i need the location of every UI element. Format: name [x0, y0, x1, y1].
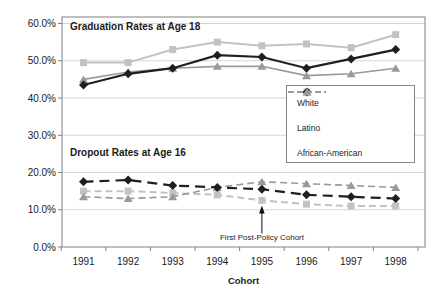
legend-label-white: White [297, 98, 319, 108]
x-tick-label: 1994 [206, 256, 229, 267]
white-square-marker [258, 42, 265, 49]
x-tick-label: 1996 [295, 256, 318, 267]
white-square-marker [392, 31, 399, 38]
latino-line [84, 50, 396, 85]
white-square-marker [125, 59, 132, 66]
annotation-first-post-policy: First Post-Policy Cohort [202, 233, 322, 242]
figure: 0.0%10.0%20.0%30.0%40.0%50.0%60.0%199119… [0, 0, 437, 297]
latino-diamond-marker [124, 175, 133, 184]
legend: White Latino African-American [286, 85, 415, 163]
x-tick-label: 1995 [251, 256, 274, 267]
y-tick-label: 60.0% [28, 18, 56, 29]
white-square-marker [303, 40, 310, 47]
y-tick-label: 10.0% [28, 204, 56, 215]
latino-diamond-marker [302, 64, 311, 73]
latino-diamond-marker [168, 181, 177, 190]
x-tick-label: 1992 [117, 256, 140, 267]
graduation-section-title: Graduation Rates at Age 18 [70, 21, 200, 32]
x-tick-label: 1993 [162, 256, 185, 267]
white-square-marker [214, 191, 221, 198]
y-tick-label: 40.0% [28, 93, 56, 104]
legend-label-latino: Latino [297, 123, 320, 133]
x-axis-title: Cohort [62, 275, 425, 286]
white-square-marker [169, 46, 176, 53]
dropout-section-title: Dropout Rates at Age 16 [70, 147, 186, 158]
white-square-marker [80, 59, 87, 66]
white-square-marker [258, 197, 265, 204]
latino-diamond-marker [391, 194, 400, 203]
x-tick-label: 1991 [72, 256, 95, 267]
latino-diamond-marker [79, 177, 88, 186]
latino-diamond-marker [347, 192, 356, 201]
latino-diamond-marker [257, 185, 266, 194]
white-square-marker [214, 39, 221, 46]
latino-diamond-marker [391, 45, 400, 54]
y-tick-label: 20.0% [28, 167, 56, 178]
african-american-triangle-marker-icon [287, 86, 327, 98]
x-tick-label: 1997 [340, 256, 363, 267]
white-square-marker [125, 188, 132, 195]
x-tick-label: 1998 [385, 256, 408, 267]
y-tick-label: 50.0% [28, 55, 56, 66]
latino-diamond-marker [257, 53, 266, 62]
white-square-marker [348, 203, 355, 210]
legend-item-african-american: African-American [297, 140, 414, 165]
legend-label-african-american: African-American [297, 148, 362, 158]
legend-item-latino: Latino [297, 115, 414, 140]
latino-diamond-marker [347, 54, 356, 63]
white-square-marker [303, 201, 310, 208]
white-square-marker [392, 203, 399, 210]
latino-diamond-marker [302, 190, 311, 199]
white-square-marker [348, 44, 355, 51]
y-tick-label: 0.0% [33, 242, 56, 253]
y-tick-label: 30.0% [28, 130, 56, 141]
latino-diamond-marker [124, 69, 133, 78]
latino-diamond-marker [213, 51, 222, 60]
